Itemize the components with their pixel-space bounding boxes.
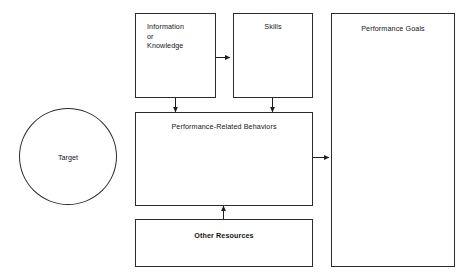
node-information-or-knowledge-label: Information or Knowledge — [147, 22, 184, 51]
diagram-canvas: Target Information or Knowledge Skills P… — [0, 0, 475, 278]
node-target[interactable]: Target — [19, 108, 117, 205]
node-performance-goals-label: Performance Goals — [332, 24, 454, 34]
node-performance-related-behaviors-label: Performance-Related Behaviors — [136, 122, 312, 132]
node-skills[interactable]: Skills — [233, 13, 313, 98]
node-performance-goals[interactable]: Performance Goals — [331, 13, 455, 267]
node-other-resources[interactable]: Other Resources — [135, 219, 313, 267]
node-target-label: Target — [20, 153, 116, 163]
node-other-resources-label: Other Resources — [136, 231, 312, 241]
node-performance-related-behaviors[interactable]: Performance-Related Behaviors — [135, 112, 313, 206]
node-information-or-knowledge[interactable]: Information or Knowledge — [135, 13, 216, 98]
node-skills-label: Skills — [234, 22, 312, 32]
